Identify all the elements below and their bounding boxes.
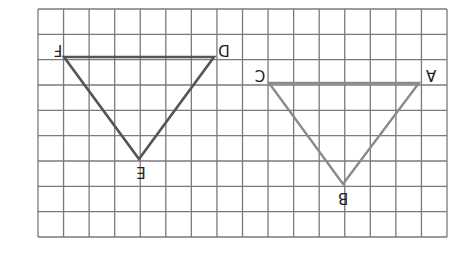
vertex-label-f: F <box>54 41 63 59</box>
vertex-label-d: D <box>218 41 230 59</box>
square-grid <box>38 9 447 237</box>
vertex-label-c: C <box>255 66 265 84</box>
vertex-label-e: E <box>136 163 145 181</box>
vertex-label-b: B <box>338 189 348 207</box>
vertex-label-a: A <box>425 66 436 84</box>
grid-diagram: F D E C A B <box>0 0 469 258</box>
